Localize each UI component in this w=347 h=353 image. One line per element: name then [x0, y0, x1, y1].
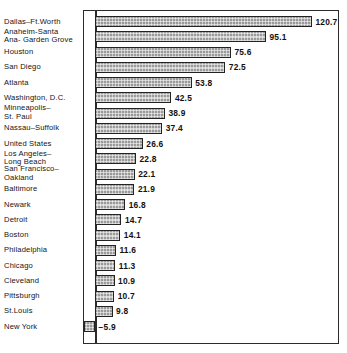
bar[interactable]	[95, 275, 115, 286]
bar-value-label: 72.5	[229, 62, 246, 72]
bar-row-label: Washington, D.C.	[4, 93, 80, 102]
bar-row-label: San Francisco– Oakland	[4, 165, 80, 182]
bar[interactable]	[95, 306, 113, 317]
bar-chart: Dallas–Ft.Worth120.7Anaheim-Santa Ana- G…	[0, 0, 347, 353]
bar-wrapper	[95, 31, 266, 42]
bar-row-label: San Diego	[4, 63, 80, 72]
bar-row: New York−5.9	[0, 321, 347, 332]
bar-value-label: 26.6	[146, 139, 163, 149]
bar[interactable]	[95, 184, 134, 195]
bar-row: Baltimore21.9	[0, 184, 347, 195]
bar-wrapper	[95, 291, 114, 302]
bar-value-label: 22.1	[138, 169, 155, 179]
bar-row: San Francisco– Oakland22.1	[0, 169, 347, 180]
bar-wrapper	[95, 153, 136, 164]
bar-row: Atlanta53.8	[0, 77, 347, 88]
bar-rows-container: Dallas–Ft.Worth120.7Anaheim-Santa Ana- G…	[0, 0, 347, 353]
bar-value-label: 11.3	[119, 261, 136, 271]
bar-row-label: Pittsburgh	[4, 292, 80, 301]
bar[interactable]	[95, 214, 121, 225]
bar[interactable]	[95, 245, 116, 256]
bar-wrapper	[95, 260, 115, 271]
bar-row-label: Atlanta	[4, 78, 80, 87]
bar-wrapper	[95, 16, 312, 27]
bar-value-label: 10.9	[118, 276, 135, 286]
bar-row: Philadelphia11.6	[0, 245, 347, 256]
bar-value-label: 14.7	[125, 215, 142, 225]
bar-value-label: 42.5	[175, 93, 192, 103]
bar-value-label: −5.9	[99, 322, 116, 332]
bar-row: Cleveland10.9	[0, 275, 347, 286]
bar-value-label: 38.9	[168, 108, 185, 118]
bar-value-label: 120.7	[316, 17, 338, 27]
bar-wrapper	[95, 245, 116, 256]
bar[interactable]	[95, 47, 231, 58]
bar-row-label: Cleveland	[4, 276, 80, 285]
bar-wrapper	[95, 62, 225, 73]
bar-value-label: 9.8	[116, 306, 128, 316]
bar-value-label: 75.6	[234, 47, 251, 57]
bar-value-label: 16.8	[129, 200, 146, 210]
bar-row-label: Philadelphia	[4, 246, 80, 255]
bar[interactable]	[95, 108, 165, 119]
bar-row: Chicago11.3	[0, 260, 347, 271]
bar[interactable]	[95, 260, 115, 271]
bar-row: Minneapolis– St. Paul38.9	[0, 108, 347, 119]
bar-wrapper	[95, 214, 121, 225]
bar-row: Washington, D.C.42.5	[0, 92, 347, 103]
bar-row-label: Minneapolis– St. Paul	[4, 104, 80, 121]
bar-row: Houston75.6	[0, 47, 347, 58]
bar-wrapper	[95, 306, 113, 317]
bar[interactable]	[95, 230, 120, 241]
bar[interactable]	[95, 199, 125, 210]
bar-wrapper	[95, 138, 143, 149]
bar-row: Detroit14.7	[0, 214, 347, 225]
bar-row: Anaheim-Santa Ana- Garden Grove95.1	[0, 31, 347, 42]
bar-wrapper	[95, 108, 165, 119]
bar[interactable]	[95, 169, 135, 180]
bar-row-label: United States	[4, 139, 80, 148]
bar-row-label: New York	[4, 322, 80, 331]
bar[interactable]	[95, 138, 143, 149]
bar[interactable]	[95, 153, 136, 164]
bar-row-label: Boston	[4, 231, 80, 240]
bar[interactable]	[95, 62, 225, 73]
bar-row-label: St.Louis	[4, 307, 80, 316]
bar[interactable]	[95, 291, 114, 302]
bar-row-label: Houston	[4, 48, 80, 57]
bar-row-label: Detroit	[4, 215, 80, 224]
bar-row-label: Chicago	[4, 261, 80, 270]
bar-value-label: 21.9	[138, 184, 155, 194]
bar-wrapper	[95, 230, 120, 241]
bar-row-label: Nassau–Suffolk	[4, 124, 80, 133]
bar-value-label: 10.7	[118, 291, 135, 301]
bar-row: United States26.6	[0, 138, 347, 149]
bar-value-label: 22.8	[140, 154, 157, 164]
bar-row: St.Louis9.8	[0, 306, 347, 317]
bar[interactable]	[84, 321, 95, 332]
bar-wrapper	[95, 199, 125, 210]
bar[interactable]	[95, 123, 162, 134]
bar-wrapper	[95, 92, 171, 103]
bar[interactable]	[95, 92, 171, 103]
bar-wrapper	[95, 184, 134, 195]
bar-wrapper	[95, 77, 192, 88]
bar-row: Nassau–Suffolk37.4	[0, 123, 347, 134]
bar-row: Newark16.8	[0, 199, 347, 210]
bar-row: Pittsburgh10.7	[0, 291, 347, 302]
bar-value-label: 53.8	[195, 78, 212, 88]
bar-wrapper	[84, 321, 95, 332]
bar[interactable]	[95, 16, 312, 27]
bar-value-label: 37.4	[166, 123, 183, 133]
bar-value-label: 11.6	[119, 245, 136, 255]
bar-row-label: Dallas–Ft.Worth	[4, 17, 80, 26]
bar-row-label: Baltimore	[4, 185, 80, 194]
bar[interactable]	[95, 77, 192, 88]
bar-wrapper	[95, 275, 115, 286]
bar-row-label: Anaheim-Santa Ana- Garden Grove	[4, 28, 80, 45]
bar-wrapper	[95, 123, 162, 134]
bar-row-label: Newark	[4, 200, 80, 209]
bar[interactable]	[95, 31, 266, 42]
bar-row: San Diego72.5	[0, 62, 347, 73]
bar-wrapper	[95, 169, 135, 180]
